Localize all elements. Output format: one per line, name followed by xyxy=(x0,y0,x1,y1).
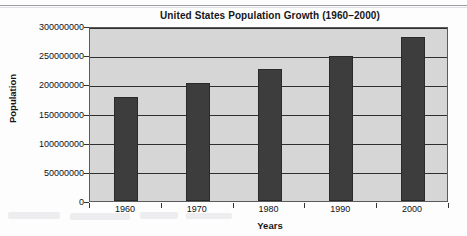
bar xyxy=(329,56,353,201)
scan-artifact-line-secondary xyxy=(0,7,467,8)
y-tick-label: 50000000 xyxy=(44,168,84,178)
x-tick-mark xyxy=(233,203,234,208)
y-tick-mark xyxy=(84,173,89,174)
bar xyxy=(186,83,210,201)
y-axis-title: Population xyxy=(7,64,18,134)
plot-area xyxy=(89,27,448,202)
x-tick-label: 1990 xyxy=(330,204,350,214)
gridline xyxy=(90,57,447,58)
y-tick-label: 200000000 xyxy=(39,80,84,90)
bar xyxy=(401,37,425,201)
y-tick-mark xyxy=(84,85,89,86)
x-tick-label: 1980 xyxy=(258,204,278,214)
y-tick-label: 100000000 xyxy=(39,139,84,149)
x-tick-label: 1970 xyxy=(187,204,207,214)
x-tick-mark xyxy=(376,203,377,208)
y-tick-label: 250000000 xyxy=(39,51,84,61)
scan-smudge xyxy=(140,212,178,219)
y-tick-mark xyxy=(84,115,89,116)
bar xyxy=(114,97,138,201)
x-tick-label: 1960 xyxy=(115,204,135,214)
gridline xyxy=(90,28,447,29)
scan-artifact-line xyxy=(0,5,467,6)
y-tick-mark xyxy=(84,56,89,57)
chart-title: United States Population Growth (1960–20… xyxy=(90,10,450,21)
scan-smudge xyxy=(8,212,60,219)
x-tick-mark xyxy=(161,203,162,208)
bar xyxy=(258,69,282,201)
x-tick-mark xyxy=(448,203,449,208)
y-tick-mark xyxy=(84,144,89,145)
x-tick-mark xyxy=(304,203,305,208)
scan-smudge xyxy=(70,213,130,220)
y-tick-label: 150000000 xyxy=(39,110,84,120)
x-axis-title: Years xyxy=(90,220,450,231)
bar-chart-figure: United States Population Growth (1960–20… xyxy=(0,0,467,236)
x-tick-label: 2000 xyxy=(402,204,422,214)
y-tick-label: 300000000 xyxy=(39,22,84,32)
y-tick-mark xyxy=(84,27,89,28)
x-tick-mark xyxy=(89,203,90,208)
